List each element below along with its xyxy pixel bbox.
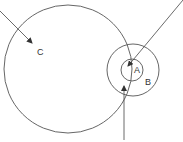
circle-b	[107, 44, 159, 96]
label-a: A	[134, 65, 140, 75]
circle-diagram: C A B	[0, 0, 183, 142]
circle-c	[4, 5, 132, 133]
arrow-to-c	[0, 11, 32, 43]
label-c: C	[37, 47, 44, 57]
label-b: B	[145, 77, 151, 87]
